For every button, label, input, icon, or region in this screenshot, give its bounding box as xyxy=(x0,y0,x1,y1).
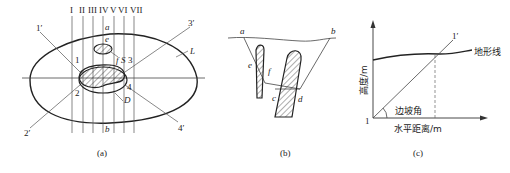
ore-body-hatched xyxy=(79,65,124,88)
ore-body-right xyxy=(275,51,301,117)
section-labels: I II III IV V VI VII xyxy=(70,5,143,15)
x-axis-arrow-icon xyxy=(480,116,488,121)
section-label: IV xyxy=(99,5,109,15)
slope-end-label: 1′ xyxy=(452,31,459,41)
section-label: VI xyxy=(118,5,128,15)
label-1: 1 xyxy=(75,55,80,65)
ore-body-left xyxy=(256,45,264,98)
label-b-d: d xyxy=(298,94,303,104)
slope-angle-arc xyxy=(383,108,387,118)
x-axis-label: 水平距离/m xyxy=(394,123,442,134)
label-b-c: c xyxy=(272,93,276,103)
panel-b: a b e f c d (b) xyxy=(228,26,336,158)
label-3: 3 xyxy=(128,55,133,65)
caption-a: (a) xyxy=(97,148,107,158)
label-f: f xyxy=(116,55,120,65)
section-label: V xyxy=(110,5,117,15)
terrain-label: 地形线 xyxy=(474,46,501,57)
label-e: e xyxy=(105,34,109,44)
diagram-canvas: I II III IV V VI VII a e f S 3 1 2 4 D b… xyxy=(0,0,510,173)
label-b-f: f xyxy=(268,66,272,76)
label-3-prime: 3′ xyxy=(188,18,195,28)
origin-label: 1 xyxy=(365,116,370,126)
section-label: VII xyxy=(130,5,143,15)
label-4: 4 xyxy=(127,82,132,92)
label-2-prime: 2′ xyxy=(24,128,31,138)
label-4-prime: 4′ xyxy=(178,123,185,133)
section-label: III xyxy=(88,5,97,15)
ore-body-e xyxy=(94,44,112,54)
label-1-prime: 1′ xyxy=(36,23,43,33)
label-D: D xyxy=(123,95,131,105)
caption-b: (b) xyxy=(280,148,291,158)
label-a: a xyxy=(105,22,110,32)
y-axis-label: 高度/m xyxy=(358,65,369,95)
label-S: S xyxy=(121,55,126,65)
terrain-line xyxy=(373,50,472,60)
label-2: 2 xyxy=(75,88,80,98)
label-b-b: b xyxy=(331,26,336,36)
panel-c: 1 1′ 地形线 边坡角 水平距离/m 高度/m (c) xyxy=(358,20,501,158)
label-L: L xyxy=(189,46,195,56)
section-label: I xyxy=(70,5,73,15)
angle-label: 边坡角 xyxy=(395,105,422,116)
label-b-e: e xyxy=(248,60,252,70)
caption-c: (c) xyxy=(413,148,423,158)
panel-a: I II III IV V VI VII a e f S 3 1 2 4 D b… xyxy=(22,5,205,158)
section-label: II xyxy=(79,5,85,15)
leader-D xyxy=(115,93,123,101)
label-b: b xyxy=(105,124,110,134)
y-axis-arrow-icon xyxy=(371,20,376,28)
label-b-a: a xyxy=(240,26,245,36)
